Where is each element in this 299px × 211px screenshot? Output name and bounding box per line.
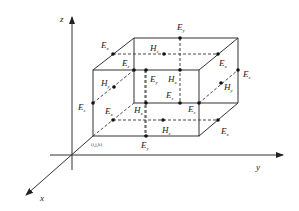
label-ex-top-left: Ex [100,40,110,51]
label-hz-bottom: Hz [161,125,171,136]
label-hx-bottom: Hx [133,105,144,116]
yee-cell-diagram: z y x (i,j,k) [0,0,299,211]
label-ez-left: Ez [77,102,86,113]
label-hy-right: Hy [223,82,234,93]
label-ez-front-top: Ez [121,58,130,69]
x-axis-label: x [39,193,44,203]
label-ex-top-right: Ex [218,58,228,69]
label-hy-left: Hy [100,78,111,89]
label-ex-bottom-left: Ex [104,106,114,117]
label-hz-top: Hz [149,43,159,54]
label-hx-mid: Hx [167,74,178,85]
field-points [91,36,240,138]
label-ey-front-mid: Ey [149,74,159,85]
label-ey-top: Ey [176,22,186,33]
origin-label: (i,j,k) [91,142,102,148]
x-axis [26,136,93,195]
field-labels: Ey Ex Hz Ez Ex Ez Hy Ey Hx Hy Ez Ez Ez E… [77,22,251,151]
label-ey-bottom: Ey [140,140,150,151]
z-axis-label: z [59,14,64,24]
y-axis-label: y [255,162,260,172]
diagram-svg: z y x (i,j,k) [0,0,299,211]
label-ez-front-right: Ez [187,104,196,115]
label-ez-back-right: Ez [242,69,251,80]
label-ez-center: Ez [165,90,174,101]
label-ex-bottom-right: Ex [220,126,230,137]
